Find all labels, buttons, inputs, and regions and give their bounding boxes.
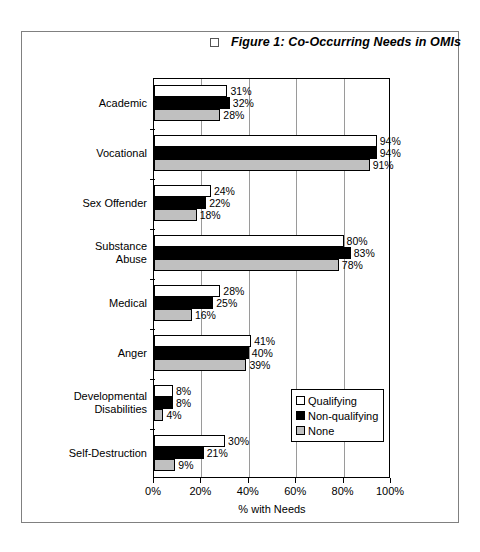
bar-value-label: 94% [380, 147, 401, 159]
y-axis-category-label: Sex Offender [35, 197, 147, 210]
bar-value-label: 8% [176, 385, 191, 397]
bar-value-label: 30% [228, 435, 249, 447]
bar [154, 359, 246, 371]
legend-label: Qualifying [308, 395, 357, 407]
legend-swatch [296, 411, 305, 420]
bar-value-label: 78% [342, 259, 363, 271]
bar [154, 185, 211, 197]
bar-value-label: 18% [200, 209, 221, 221]
bar [154, 447, 204, 459]
x-axis-tick [248, 478, 249, 483]
bar-value-label: 24% [214, 185, 235, 197]
bar-value-label: 40% [252, 347, 273, 359]
x-axis-tick-label: 100% [350, 485, 430, 497]
y-axis-category-label: Anger [35, 347, 147, 360]
y-axis-category-label: Vocational [35, 147, 147, 160]
y-axis-category-label: Academic [35, 97, 147, 110]
bar [154, 285, 220, 297]
empty-checkbox-icon [210, 38, 219, 47]
bar-value-label: 28% [223, 285, 244, 297]
bar [154, 247, 351, 259]
bar [154, 397, 173, 409]
x-axis-tick [390, 478, 391, 483]
legend-item: Non-qualifying [296, 408, 378, 423]
bar-value-label: 41% [254, 335, 275, 347]
legend-label: Non-qualifying [308, 410, 378, 422]
page-title: Figure 1: Co-Occurring Needs in OMIs [231, 35, 461, 49]
bar [154, 335, 251, 347]
bar-value-label: 28% [223, 109, 244, 121]
bar [154, 109, 220, 121]
bar [154, 309, 192, 321]
bar [154, 159, 370, 171]
bar [154, 147, 377, 159]
category-group: 31%32%28% [154, 79, 389, 129]
category-group: 41%40%39% [154, 329, 389, 379]
bar-value-label: 80% [347, 235, 368, 247]
x-axis-tick [295, 478, 296, 483]
legend-item: Qualifying [296, 393, 378, 408]
bar-value-label: 22% [209, 197, 230, 209]
bar [154, 235, 344, 247]
figure-root: Figure 1: Co-Occurring Needs in OMIs Aca… [0, 0, 480, 552]
bar [154, 135, 377, 147]
bar-value-label: 91% [373, 159, 394, 171]
bar [154, 209, 197, 221]
legend-item: None [296, 423, 378, 438]
legend-swatch [296, 396, 305, 405]
category-group: 24%22%18% [154, 179, 389, 229]
bar-value-label: 9% [178, 459, 193, 471]
x-axis-tick [343, 478, 344, 483]
chart-title-row: Figure 1: Co-Occurring Needs in OMIs [210, 32, 461, 52]
bar-value-label: 83% [354, 247, 375, 259]
bar-value-label: 4% [166, 409, 181, 421]
bar [154, 385, 173, 397]
category-group: 28%25%16% [154, 279, 389, 329]
bar [154, 297, 213, 309]
y-axis-category-label: DevelopmentalDisabilities [35, 390, 147, 416]
bar [154, 259, 339, 271]
bar [154, 97, 230, 109]
x-axis-tick-labels: 0%20%40%60%80%100% [113, 485, 433, 499]
bar-value-label: 21% [207, 447, 228, 459]
bar-value-label: 39% [249, 359, 270, 371]
bar [154, 347, 249, 359]
x-axis-ticks [153, 478, 391, 484]
bar [154, 459, 175, 471]
bar [154, 85, 227, 97]
x-axis-tick [200, 478, 201, 483]
legend-label: None [308, 425, 334, 437]
chart-legend: QualifyingNon-qualifyingNone [291, 389, 384, 442]
y-axis-category-label: SubstanceAbuse [35, 240, 147, 266]
x-axis-tick [153, 478, 154, 483]
y-axis-category-label: Self-Destruction [35, 447, 147, 460]
x-axis-title: % with Needs [153, 503, 391, 515]
bar-value-label: 25% [216, 297, 237, 309]
category-group: 94%94%91% [154, 129, 389, 179]
bar-value-label: 32% [233, 97, 254, 109]
legend-swatch [296, 426, 305, 435]
bar [154, 435, 225, 447]
y-axis-category-label: Medical [35, 297, 147, 310]
bar-value-label: 94% [380, 135, 401, 147]
bar-value-label: 31% [230, 85, 251, 97]
bar [154, 197, 206, 209]
y-axis-category-labels: AcademicVocationalSex OffenderSubstanceA… [35, 78, 147, 478]
bar [154, 409, 163, 421]
category-group: 80%83%78% [154, 229, 389, 279]
bar-value-label: 8% [176, 397, 191, 409]
bar-value-label: 16% [195, 309, 216, 321]
